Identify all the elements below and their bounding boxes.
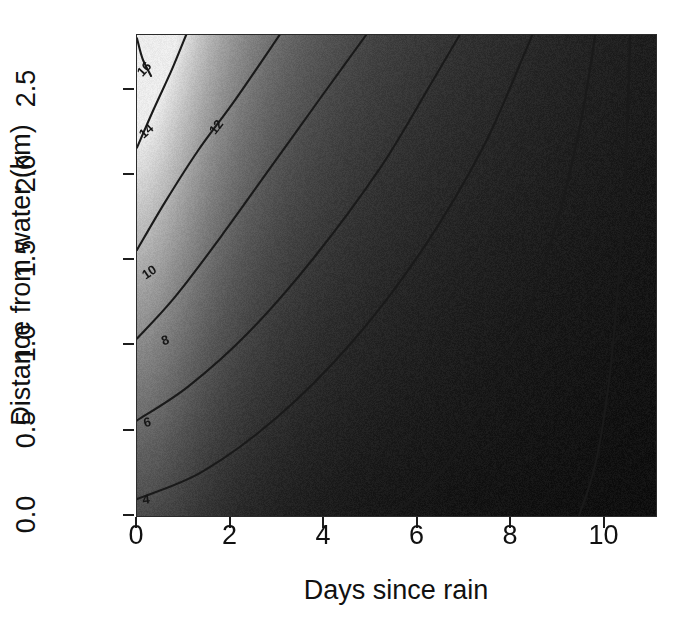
contour-line-6 <box>137 35 532 499</box>
x-tick-label: 2 <box>222 522 237 549</box>
y-axis-title: Distance from water (km) <box>8 124 35 426</box>
contour-line-10 <box>137 35 366 339</box>
contour-lines-layer <box>137 35 656 516</box>
contour-line-8 <box>137 35 460 420</box>
y-tick-mark <box>123 429 134 431</box>
y-tick-mark <box>123 343 134 345</box>
x-tick-label: 10 <box>589 522 619 549</box>
y-tick-mark <box>123 173 134 175</box>
x-tick-label: 8 <box>503 522 518 549</box>
y-tick-label: 2.5 <box>14 69 41 107</box>
x-tick-label: 0 <box>128 522 143 549</box>
x-axis-title: Days since rain <box>304 577 489 604</box>
x-tick-label: 4 <box>316 522 331 549</box>
x-tick-label: 6 <box>409 522 424 549</box>
y-tick-mark <box>123 258 134 260</box>
contour-line-2 <box>579 35 630 516</box>
y-tick-mark <box>123 514 134 516</box>
contour-line-4 <box>389 35 595 516</box>
contour-line-12 <box>137 35 280 250</box>
y-tick-label: 0.0 <box>14 496 41 534</box>
y-tick-mark <box>123 88 134 90</box>
contour-plot-figure: 16141210864 02468100.00.51.01.52.02.5 Da… <box>0 0 681 639</box>
plot-panel: 16141210864 <box>136 34 657 517</box>
